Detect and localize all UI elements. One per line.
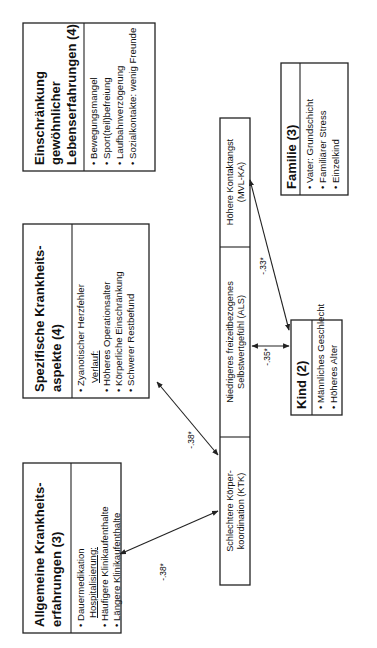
spezifische-title-line1: Spezifische Krankheits-	[32, 245, 47, 392]
einschraenkung-item: • Bewegungsmangel	[88, 77, 99, 165]
box-kind: Kind (2) • Männliches Geschlecht • Höher…	[291, 303, 342, 415]
spezifische-item: • Schwerer Restbefund	[125, 294, 136, 392]
diagram-canvas: Allgemeine Krankheits- erfahrungen (3) •…	[0, 0, 377, 648]
arrow-allgemeine-ktk	[120, 511, 218, 554]
einschraenkung-item: • Laufbahnverzögerung	[114, 66, 125, 165]
box-spezifische: Spezifische Krankheits- aspekte (4) • Zy…	[23, 224, 149, 398]
einschraenkung-item: • Sport(teil)befreiung	[101, 77, 112, 165]
ktk-line1: Schlechtere Körper-	[225, 470, 235, 552]
familie-title: Familie (3)	[284, 125, 299, 189]
spezifische-item: • Körperliche Einschränkung	[113, 271, 124, 392]
spezifische-item: • Zyanotischer Herzfehler	[75, 283, 86, 392]
outcome-als: Niedrigeres freizeitbezogenes Selbstwert…	[225, 281, 246, 403]
kind-item: • Männliches Geschlecht	[315, 303, 326, 409]
corr-spezifische-ktk: -.38*	[186, 430, 196, 448]
einschraenkung-title-line1: Einschränkung	[32, 71, 47, 165]
einschraenkung-item: • Sozialkontakte: wenig Freunde	[127, 28, 138, 165]
outcome-strip: Schlechtere Körper- koordination (KTK) N…	[220, 118, 250, 585]
spezifische-item: • Höheres Operationsalter	[101, 281, 112, 392]
box-allgemeine: Allgemeine Krankheits- erfahrungen (3) •…	[23, 463, 122, 633]
familie-item: • Familiärer Stress	[317, 110, 328, 189]
ktk-line2: koordination (KTK)	[236, 473, 246, 550]
corr-kind-als: -.35*	[262, 347, 272, 365]
correlation-labels: -.38* -.38* -.35* -.33*	[158, 256, 272, 580]
box-familie: Familie (3) • Vater: Grundschicht • Fami…	[281, 63, 348, 195]
kind-item: • Höheres Alter	[328, 344, 339, 409]
outcome-ktk: Schlechtere Körper- koordination (KTK)	[225, 470, 246, 552]
als-line2: Selbstwertgefühl (ALS)	[236, 295, 246, 389]
allgemeine-title-line2: erfahrungen (3)	[49, 532, 64, 627]
spezifische-subheading: Verlauf:	[89, 350, 100, 383]
allgemeine-item: • Dauermedikation	[75, 548, 86, 627]
mvl-line1: Höhere Kontaktangst	[225, 138, 235, 225]
allgemeine-title-line1: Allgemeine Krankheits-	[32, 483, 47, 628]
corr-kind-mvl: -.33*	[258, 256, 268, 274]
allgemeine-subheading: Hospitalisierung:	[87, 547, 98, 618]
mvl-line2: (MVL-KA)	[236, 162, 246, 202]
familie-item: • Vater: Grundschicht	[304, 99, 315, 189]
box-einschraenkung: Einschränkung gewöhnlicher Lebenserfahru…	[23, 23, 155, 171]
arrow-kind-mvl	[250, 180, 289, 330]
spezifische-title-line2: aspekte (4)	[49, 324, 64, 392]
einschraenkung-title-line2: gewöhnlicher	[48, 81, 63, 165]
allgemeine-item: • Längere Klinikaufenthalte	[111, 513, 122, 627]
als-line1: Niedrigeres freizeitbezogenes	[225, 281, 235, 403]
kind-title: Kind (2)	[294, 361, 309, 409]
familie-item: • Einzelkind	[330, 139, 341, 189]
einschraenkung-title-line3: Lebenserfahrungen (4)	[64, 24, 79, 165]
allgemeine-item: • Häufigere Klinikaufenthalte	[99, 506, 110, 627]
corr-allgemeine-ktk: -.38*	[158, 562, 168, 580]
